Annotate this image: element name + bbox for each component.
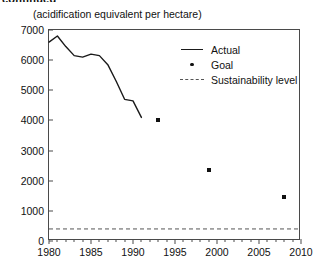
legend-label-actual: Actual: [208, 44, 240, 56]
y-tick-label: 4000: [21, 114, 44, 126]
y-tick-label: 3000: [21, 145, 44, 157]
x-tick-label: 1990: [121, 246, 144, 258]
y-tick-label: 2000: [21, 175, 44, 187]
legend-item-sustainability: Sustainability level: [176, 72, 297, 87]
legend-item-actual: Actual: [176, 42, 297, 57]
x-tick-label: 1995: [163, 246, 186, 258]
dashed-line-icon: [176, 79, 208, 80]
y-tick-label: 5000: [21, 84, 44, 96]
legend-item-goal: Goal: [176, 57, 297, 72]
legend-label-goal: Goal: [208, 59, 233, 71]
solid-line-icon: [176, 49, 208, 51]
plot-area: 01000200030004000500060007000 1980198519…: [48, 29, 300, 240]
dot-marker-icon: [176, 63, 208, 67]
chart-figure: continued (acidification equivalent per …: [0, 0, 322, 265]
y-tick-label: 6000: [21, 54, 44, 66]
x-tick-label: 2000: [205, 246, 228, 258]
actual-series-line: [49, 36, 141, 117]
chart-legend: Actual Goal Sustainability level: [176, 42, 297, 87]
y-tick-label: 7000: [21, 24, 44, 36]
legend-label-sustainability: Sustainability level: [208, 74, 297, 86]
x-tick-label: 1980: [37, 246, 60, 258]
goal-data-point: [282, 195, 286, 199]
x-tick-label: 2005: [247, 246, 270, 258]
goal-data-point: [156, 118, 160, 122]
page-title-truncated: continued: [2, 0, 56, 2]
chart-subtitle: (acidification equivalent per hectare): [33, 8, 202, 20]
goal-data-point: [207, 168, 211, 172]
y-tick-label: 1000: [21, 205, 44, 217]
x-tick-label: 1985: [79, 246, 102, 258]
x-tick-label: 2010: [289, 246, 312, 258]
